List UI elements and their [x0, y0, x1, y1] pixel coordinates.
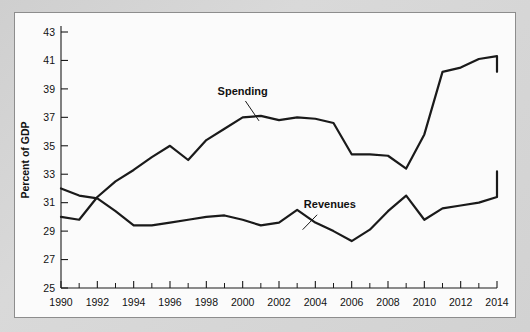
y-tick-label: 29 [43, 225, 55, 237]
screenshot-root: 2527293133353739414319901992199419961998… [0, 0, 530, 332]
line-chart: 2527293133353739414319901992199419961998… [15, 13, 515, 317]
x-tick-label: 1992 [86, 296, 110, 308]
chart-card: 2527293133353739414319901992199419961998… [14, 12, 516, 318]
x-tick-label: 2008 [376, 296, 400, 308]
y-tick-label: 25 [43, 282, 55, 294]
series-line-revenues [61, 171, 497, 241]
y-tick-label: 43 [43, 26, 55, 38]
x-tick-label: 1990 [49, 296, 73, 308]
x-tick-label: 2004 [304, 296, 328, 308]
series-label-spending: Spending [218, 85, 268, 97]
y-tick-label: 39 [43, 83, 55, 95]
y-tick-label: 37 [43, 111, 55, 123]
series-label-revenues: Revenues [304, 198, 356, 210]
y-tick-label: 35 [43, 140, 55, 152]
y-tick-label: 27 [43, 253, 55, 265]
y-tick-label: 33 [43, 168, 55, 180]
y-axis-title: Percent of GDP [19, 121, 31, 198]
x-tick-label: 2000 [231, 296, 255, 308]
y-tick-label: 31 [43, 196, 55, 208]
x-tick-label: 2010 [413, 296, 437, 308]
x-tick-label: 2002 [267, 296, 291, 308]
x-tick-label: 2012 [449, 296, 473, 308]
series-line-spending [61, 56, 497, 220]
x-tick-label: 1994 [122, 296, 146, 308]
x-tick-label: 1996 [158, 296, 182, 308]
y-tick-label: 41 [43, 54, 55, 66]
x-tick-label: 2006 [340, 296, 364, 308]
x-tick-label: 2014 [485, 296, 509, 308]
x-tick-label: 1998 [195, 296, 219, 308]
